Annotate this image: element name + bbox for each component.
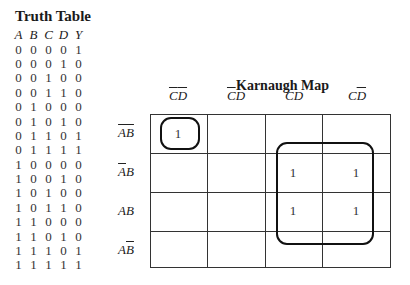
truth-table-cell: 1 — [71, 244, 86, 258]
column-header-c-d: CD — [274, 88, 314, 104]
truth-table-cell: 0 — [11, 143, 26, 157]
truth-table-cell: 0 — [41, 114, 56, 128]
truth-table-cell: 1 — [41, 129, 56, 143]
truth-table-cell: 0 — [71, 100, 86, 114]
truth-table-cell: 0 — [71, 158, 86, 172]
truth-table-cell: 0 — [71, 71, 86, 85]
truth-table-cell: 0 — [56, 215, 71, 229]
truth-table-cell: 0 — [56, 71, 71, 85]
truth-table-row: 00001 — [11, 42, 86, 56]
truth-table-cell: 1 — [11, 186, 26, 200]
truth-table-cell: 0 — [26, 42, 41, 56]
truth-table-cell: 1 — [11, 229, 26, 243]
truth-table-cell: 0 — [11, 71, 26, 85]
truth-table-row: 01000 — [11, 100, 86, 114]
truth-table-header: A B C D Y — [11, 28, 86, 42]
truth-table-cell: 0 — [71, 215, 86, 229]
truth-table-cell: 0 — [56, 186, 71, 200]
truth-table-cell: 0 — [26, 201, 41, 215]
truth-table-cell: 1 — [41, 258, 56, 272]
truth-table-cell: 1 — [11, 172, 26, 186]
truth-table-row: 01101 — [11, 129, 86, 143]
truth-table-cell: 1 — [11, 244, 26, 258]
truth-table-cell: 0 — [41, 215, 56, 229]
truth-table-cell: 0 — [56, 129, 71, 143]
truth-table-cell: 1 — [56, 201, 71, 215]
truth-table-cell: 0 — [11, 129, 26, 143]
grid-divider — [207, 114, 208, 268]
truth-table-cell: 0 — [26, 71, 41, 85]
header-a: A — [11, 28, 26, 42]
truth-table: A B C D Y 000010001000100001100100001010… — [11, 28, 86, 273]
truth-table-row: 10110 — [11, 201, 86, 215]
truth-table-row: 01111 — [11, 143, 86, 157]
truth-table-cell: 0 — [71, 186, 86, 200]
truth-table-cell: 0 — [26, 86, 41, 100]
column-header-c-d-bar: CD — [337, 88, 377, 104]
row-header-a-b-bar: AB — [108, 242, 144, 258]
truth-table-cell: 1 — [11, 258, 26, 272]
truth-table-row: 00010 — [11, 57, 86, 71]
truth-table-cell: 1 — [26, 100, 41, 114]
truth-table-cell: 0 — [41, 158, 56, 172]
truth-table-cell: 0 — [41, 57, 56, 71]
truth-table-cell: 1 — [41, 244, 56, 258]
truth-table-cell: 0 — [26, 172, 41, 186]
truth-table-cell: 1 — [56, 86, 71, 100]
truth-table-row: 11010 — [11, 229, 86, 243]
truth-table-cell: 0 — [71, 114, 86, 128]
header-d: D — [56, 28, 71, 42]
header-c: C — [41, 28, 56, 42]
truth-table-cell: 1 — [26, 143, 41, 157]
truth-table-cell: 0 — [26, 57, 41, 71]
truth-table-cell: 1 — [71, 258, 86, 272]
row-header-a-bar-b: AB — [108, 164, 144, 180]
truth-table-cell: 0 — [11, 114, 26, 128]
truth-table-row: 11111 — [11, 258, 86, 272]
truth-table-row: 11000 — [11, 215, 86, 229]
truth-table-cell: 0 — [71, 57, 86, 71]
truth-table-cell: 1 — [26, 129, 41, 143]
truth-table-cell: 1 — [41, 201, 56, 215]
truth-table-cell: 0 — [41, 42, 56, 56]
truth-table-title: Truth Table — [15, 8, 91, 25]
column-header-c-bar-d: CD — [216, 88, 256, 104]
truth-table-cell: 1 — [26, 244, 41, 258]
truth-table-cell: 1 — [26, 215, 41, 229]
truth-table-cell: 0 — [41, 172, 56, 186]
truth-table-cell: 1 — [56, 172, 71, 186]
truth-table-cell: 0 — [26, 186, 41, 200]
truth-table-cell: 1 — [56, 57, 71, 71]
truth-table-cell: 1 — [41, 143, 56, 157]
grid-divider — [265, 114, 266, 268]
truth-table-cell: 1 — [71, 143, 86, 157]
truth-table-cell: 0 — [71, 201, 86, 215]
truth-table-cell: 1 — [71, 42, 86, 56]
truth-table-cell: 1 — [11, 158, 26, 172]
group-loop-single — [160, 117, 200, 150]
truth-table-cell: 0 — [11, 42, 26, 56]
truth-table-cell: 1 — [41, 71, 56, 85]
row-header-a-bar-b-bar: AB — [108, 125, 144, 141]
truth-table-cell: 0 — [56, 100, 71, 114]
header-y: Y — [71, 28, 86, 42]
group-loop-quad — [276, 142, 374, 245]
truth-table-cell: 1 — [11, 201, 26, 215]
column-header-c-bar-d-bar: CD — [158, 88, 198, 104]
truth-table-cell: 0 — [71, 86, 86, 100]
truth-table-row: 00100 — [11, 71, 86, 85]
truth-table-cell: 1 — [56, 229, 71, 243]
truth-table-cell: 0 — [56, 244, 71, 258]
truth-table-cell: 0 — [41, 229, 56, 243]
truth-table-cell: 1 — [56, 258, 71, 272]
truth-table-cell: 1 — [56, 114, 71, 128]
truth-table-cell: 1 — [11, 215, 26, 229]
truth-table-cell: 0 — [11, 86, 26, 100]
truth-table-row: 10000 — [11, 158, 86, 172]
truth-table-row: 10100 — [11, 186, 86, 200]
truth-table-cell: 1 — [26, 229, 41, 243]
truth-table-row: 00110 — [11, 86, 86, 100]
truth-table-row: 11101 — [11, 244, 86, 258]
truth-table-cell: 1 — [26, 258, 41, 272]
row-header-a-b: AB — [108, 203, 144, 219]
